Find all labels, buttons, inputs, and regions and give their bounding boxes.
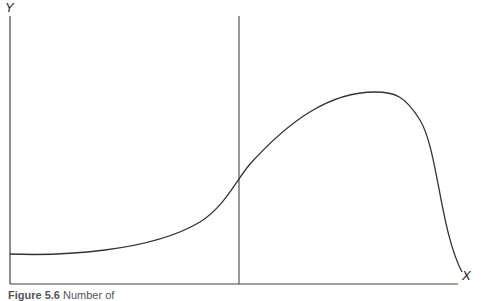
x-axis-label: X	[462, 268, 471, 283]
caption-prefix: Figure 5.6	[8, 289, 60, 301]
figure-caption: Figure 5.6 Number of	[8, 289, 114, 301]
curve	[10, 92, 462, 272]
y-axis-label: Y	[5, 0, 14, 15]
caption-text: Number of	[63, 289, 114, 301]
